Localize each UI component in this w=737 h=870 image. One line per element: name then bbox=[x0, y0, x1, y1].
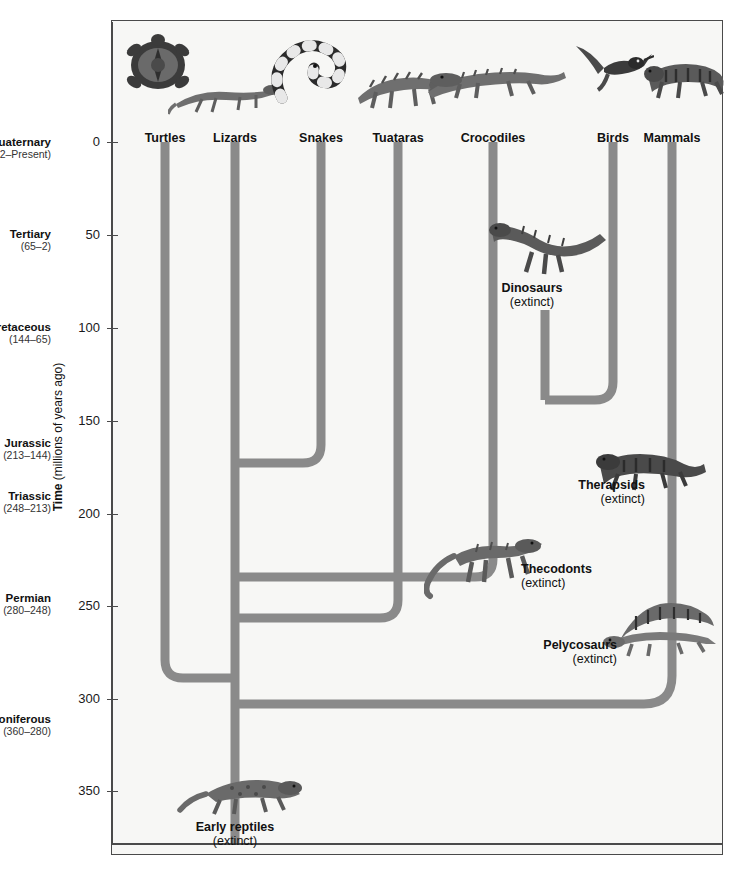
axis-tick bbox=[107, 699, 118, 700]
group-label-pelycosaurs: Pelycosaurs (extinct) bbox=[543, 638, 617, 667]
taxon-label-turtles: Turtles bbox=[145, 131, 186, 145]
axis-tick-label: 100 bbox=[60, 320, 100, 335]
period-label-quaternary: Quaternary (2–Present) bbox=[0, 136, 51, 161]
axis-tick-label: 350 bbox=[60, 783, 100, 798]
period-name: Cretaceous bbox=[0, 321, 51, 334]
group-status: (extinct) bbox=[501, 295, 562, 309]
y-axis-title-rest: (millions of years ago) bbox=[51, 363, 65, 484]
group-status: (extinct) bbox=[521, 576, 592, 590]
group-status: (extinct) bbox=[196, 834, 275, 848]
axis-tick-label: 150 bbox=[60, 413, 100, 428]
axis-tick bbox=[107, 514, 118, 515]
period-name: Quaternary bbox=[0, 136, 51, 149]
axis-tick bbox=[107, 328, 118, 329]
group-name: Therapsids bbox=[578, 478, 645, 492]
taxon-label-birds: Birds bbox=[597, 131, 629, 145]
axis-tick bbox=[107, 421, 118, 422]
group-label-thecodonts: Thecodonts (extinct) bbox=[521, 562, 592, 591]
period-label-triassic: Triassic (248–213) bbox=[0, 490, 51, 515]
group-status: (extinct) bbox=[543, 652, 617, 666]
taxon-label-crocodiles: Crocodiles bbox=[461, 131, 526, 145]
axis-tick bbox=[107, 235, 118, 236]
period-label-tertiary: Tertiary (65–2) bbox=[0, 228, 51, 253]
group-label-dinosaurs: Dinosaurs (extinct) bbox=[501, 281, 562, 310]
period-label-carboniferous: Carboniferous (360–280) bbox=[0, 713, 51, 738]
period-name: Jurassic bbox=[0, 437, 51, 450]
group-name: Pelycosaurs bbox=[543, 638, 617, 652]
axis-tick-label: 200 bbox=[60, 506, 100, 521]
phylogenetic-tree-figure: 0 50 100 150 200 250 300 350 Quaternary … bbox=[0, 0, 737, 870]
group-name: Early reptiles bbox=[196, 820, 275, 834]
period-range: (65–2) bbox=[0, 241, 51, 253]
axis-tick-label: 0 bbox=[60, 134, 100, 149]
axis-tick-label: 250 bbox=[60, 598, 100, 613]
period-range: (2–Present) bbox=[0, 149, 51, 161]
taxon-label-tuataras: Tuataras bbox=[372, 131, 423, 145]
period-label-permian: Permian (280–248) bbox=[0, 592, 51, 617]
period-range: (280–248) bbox=[0, 605, 51, 617]
axis-tick-label: 300 bbox=[60, 691, 100, 706]
period-range: (248–213) bbox=[0, 503, 51, 515]
axis-tick bbox=[107, 142, 118, 143]
figure-frame bbox=[111, 20, 723, 855]
taxon-label-lizards: Lizards bbox=[213, 131, 257, 145]
axis-tick bbox=[107, 606, 118, 607]
period-name: Permian bbox=[0, 592, 51, 605]
group-status: (extinct) bbox=[578, 492, 645, 506]
period-name: Tertiary bbox=[0, 228, 51, 241]
taxon-label-snakes: Snakes bbox=[299, 131, 343, 145]
time-axis-line bbox=[111, 22, 113, 845]
period-range: (360–280) bbox=[0, 726, 51, 738]
y-axis-title-bold: Time bbox=[51, 483, 65, 511]
taxon-label-mammals: Mammals bbox=[644, 131, 701, 145]
group-name: Dinosaurs bbox=[501, 281, 562, 295]
axis-tick-label: 50 bbox=[60, 227, 100, 242]
period-name: Carboniferous bbox=[0, 713, 51, 726]
y-axis-title: Time (millions of years ago) bbox=[51, 327, 65, 547]
axis-tick bbox=[107, 791, 118, 792]
period-label-jurassic: Jurassic (213–144) bbox=[0, 437, 51, 462]
period-range: (213–144) bbox=[0, 450, 51, 462]
period-label-cretaceous: Cretaceous (144–65) bbox=[0, 321, 51, 346]
period-range: (144–65) bbox=[0, 334, 51, 346]
group-label-early-reptiles: Early reptiles (extinct) bbox=[196, 820, 275, 849]
period-name: Triassic bbox=[0, 490, 51, 503]
group-label-therapsids: Therapsids (extinct) bbox=[578, 478, 645, 507]
group-name: Thecodonts bbox=[521, 562, 592, 576]
